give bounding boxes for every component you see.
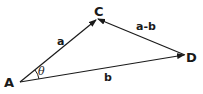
angle-label-theta: θ <box>38 65 45 78</box>
vector-label-a: a <box>57 35 64 48</box>
vector-diagram: A C D a b a-b θ <box>0 0 203 94</box>
point-label-c: C <box>94 4 104 19</box>
point-label-d: D <box>186 50 197 65</box>
diagram-canvas: A C D a b a-b θ <box>0 0 203 94</box>
point-label-a: A <box>4 75 14 90</box>
vector-a-arrow <box>20 20 96 82</box>
vector-label-b: b <box>104 71 112 84</box>
vector-label-a-minus-b: a-b <box>136 20 156 33</box>
